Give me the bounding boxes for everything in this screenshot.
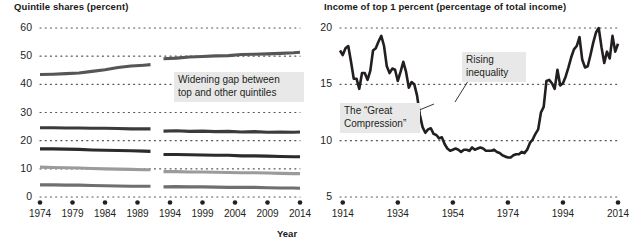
x-axis-tick-dot	[168, 200, 173, 205]
data-series-line	[164, 131, 301, 132]
callout-great-compression: The “Great Compression”	[340, 103, 420, 133]
x-axis-tick-dot	[506, 200, 511, 205]
x-axis-tick-dot	[200, 200, 205, 205]
x-axis-tick-dot	[265, 200, 270, 205]
data-series-line	[40, 185, 151, 186]
x-axis-tick-dot	[70, 200, 75, 205]
data-series-line	[40, 65, 151, 75]
data-series-line	[40, 149, 151, 152]
x-axis-title: Year	[277, 228, 297, 239]
x-axis-tick-dot	[451, 200, 456, 205]
data-series-line	[40, 128, 151, 129]
callout-rising-inequality: Rising inequality	[462, 52, 526, 82]
x-axis-tick-dot	[616, 200, 621, 205]
y-axis-tick-label: 40	[6, 77, 32, 89]
y-axis-tick-label: 15	[306, 77, 332, 89]
data-series-line	[164, 52, 301, 58]
x-axis-tick-dot	[38, 200, 43, 205]
y-axis-tick-label: 10	[306, 134, 332, 146]
callout-widening-gap: Widening gap between top and other quint…	[174, 72, 304, 102]
x-axis-tick-dot	[340, 200, 345, 205]
y-axis-tick-label: 20	[6, 134, 32, 146]
x-axis-tick-dot	[396, 200, 401, 205]
y-axis-tick-label: 10	[6, 162, 32, 174]
x-axis-tick-dot	[298, 200, 303, 205]
y-axis-tick-label: 5	[306, 190, 332, 202]
y-axis-tick-label: 60	[6, 21, 32, 33]
x-axis-tick-dot	[135, 200, 140, 205]
panel-quintile-shares: Quintile shares (percent) Year Widening …	[0, 0, 312, 244]
x-axis-tick-label: 1934	[376, 208, 420, 219]
x-axis-tick-label: 1974	[486, 208, 530, 219]
x-axis-tick-label: 2014	[596, 208, 634, 219]
x-axis-tick-label: 1914	[321, 208, 365, 219]
x-axis-tick-dot	[561, 200, 566, 205]
panel-top-one-percent: Income of top 1 percent (percentage of t…	[312, 0, 625, 244]
data-series-line	[164, 187, 301, 189]
data-series-line	[164, 154, 301, 156]
x-axis-tick-label: 1954	[431, 208, 475, 219]
y-axis-tick-label: 0	[6, 190, 32, 202]
y-axis-tick-label: 20	[306, 21, 332, 33]
y-axis-tick-label: 30	[6, 106, 32, 118]
data-series-line	[340, 28, 618, 158]
data-series-line	[164, 172, 301, 174]
x-axis-tick-dot	[233, 200, 238, 205]
x-axis-tick-dot	[103, 200, 108, 205]
y-axis-tick-label: 50	[6, 49, 32, 61]
x-axis-tick-label: 1994	[541, 208, 585, 219]
